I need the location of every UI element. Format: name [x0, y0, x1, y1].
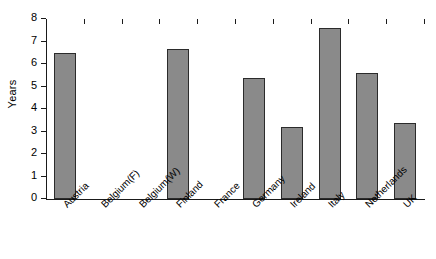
bar [394, 123, 416, 200]
y-tick-label: 6 [31, 56, 37, 68]
bar [54, 53, 76, 199]
y-tick-label: 1 [31, 169, 37, 181]
y-tick-label: 2 [31, 146, 37, 158]
y-tick-label: 8 [31, 11, 37, 23]
x-axis-labels: AustriaBelgium(F)Belgium(W)FinlandFrance… [46, 202, 425, 259]
bars-layer [46, 19, 424, 199]
plot-area: 012345678 [46, 19, 424, 199]
bar [319, 28, 341, 199]
bar [356, 73, 378, 199]
y-tick-label: 3 [31, 124, 37, 136]
bar [281, 127, 303, 199]
bar [243, 78, 265, 200]
bar-chart: Years 012345678 AustriaBelgium(F)Belgium… [0, 0, 436, 259]
y-axis-title: Years [6, 64, 18, 124]
y-tick-label: 5 [31, 79, 37, 91]
y-tick-label: 4 [31, 101, 37, 113]
y-tick-label: 7 [31, 34, 37, 46]
x-tick [424, 19, 425, 24]
y-tick-label: 0 [31, 191, 37, 203]
